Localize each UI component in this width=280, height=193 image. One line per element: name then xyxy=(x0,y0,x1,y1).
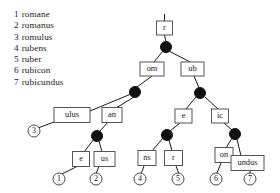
edge-label-ub: ub xyxy=(181,62,204,76)
leaf-label: 4 xyxy=(138,174,142,183)
tree-edge xyxy=(226,138,232,148)
leaf-node-6: 6 xyxy=(210,173,222,185)
edge-label-e1: e xyxy=(73,152,90,167)
branch-node-n-om xyxy=(130,87,141,98)
branch-node-n-ub xyxy=(195,88,206,99)
tree-edge xyxy=(99,141,102,152)
edge-label-undus: undus xyxy=(231,156,264,171)
edge-label-text: undus xyxy=(237,158,257,167)
leaf-node-3: 3 xyxy=(28,125,40,137)
leaf-node-2: 2 xyxy=(90,173,102,185)
leaf-label: 3 xyxy=(32,126,36,135)
edge-label-e2: e xyxy=(175,109,192,123)
branch-node-n-root xyxy=(161,42,172,53)
edge-label-text: r xyxy=(163,23,166,32)
leaf-label: 2 xyxy=(94,174,98,183)
tree-edge xyxy=(84,139,94,152)
edge-label-text: ulus xyxy=(65,110,79,119)
leaf-node-4: 4 xyxy=(134,173,146,185)
tree-edge xyxy=(169,51,190,62)
edge-label-text: an xyxy=(108,110,117,119)
edge-label-ulus: ulus xyxy=(54,108,90,123)
tree-edge xyxy=(137,76,152,87)
tree-edge xyxy=(165,35,167,42)
edge-label-om: om xyxy=(140,62,164,76)
tree-edge xyxy=(62,166,78,174)
edge-label-text: e xyxy=(182,111,186,120)
tree-edge xyxy=(154,51,163,62)
tree-edge xyxy=(237,139,241,156)
tree-edge xyxy=(170,123,180,131)
tree-edge-labels: romubulusaneiceusnsronundus xyxy=(54,21,264,171)
leaf-label: 7 xyxy=(248,174,252,183)
edge-label-text: ns xyxy=(143,153,150,162)
edge-label-root: r xyxy=(157,21,173,35)
leaf-label: 5 xyxy=(176,174,180,183)
edge-label-us: us xyxy=(94,152,115,167)
edge-label-ic: ic xyxy=(212,109,229,123)
edge-label-on: on xyxy=(215,148,233,163)
edge-label-an: an xyxy=(102,108,122,123)
edge-label-r2: r xyxy=(165,151,183,166)
tree-edge xyxy=(100,122,108,131)
tree-edge xyxy=(205,97,218,109)
leaf-label: 6 xyxy=(214,174,218,183)
edge-label-text: e xyxy=(79,154,83,163)
tree-branch-nodes xyxy=(92,42,241,142)
edge-label-text: r xyxy=(172,153,175,162)
radix-tree-diagram: romubulusaneiceusnsronundus 1234567 xyxy=(0,0,280,193)
tree-edge xyxy=(38,122,54,128)
tree-edge xyxy=(186,97,196,109)
tree-edge xyxy=(194,76,199,88)
tree-edge xyxy=(152,138,163,151)
leaf-node-7: 7 xyxy=(244,173,256,185)
leaf-label: 1 xyxy=(57,174,61,183)
edge-label-text: om xyxy=(147,64,158,73)
leaf-node-5: 5 xyxy=(172,173,184,185)
tree-edge xyxy=(224,123,232,130)
edge-label-text: ub xyxy=(188,64,196,73)
branch-node-n-e2 xyxy=(162,130,173,141)
tree-edge xyxy=(169,140,172,151)
branch-node-n-ic xyxy=(230,129,241,140)
tree-edge xyxy=(217,163,221,173)
edge-label-text: ic xyxy=(217,111,223,120)
leaf-node-1: 1 xyxy=(53,173,65,185)
branch-node-n-an xyxy=(92,131,103,142)
edge-label-ns: ns xyxy=(138,151,156,166)
edge-label-text: us xyxy=(101,154,108,163)
edge-label-text: on xyxy=(220,150,229,159)
